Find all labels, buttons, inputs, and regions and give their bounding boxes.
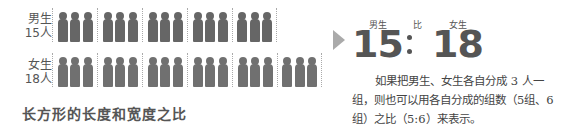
person-icon xyxy=(160,12,170,42)
person-icon xyxy=(173,12,183,42)
row-label-boys: 男生 15人 xyxy=(24,12,52,40)
person-group xyxy=(97,53,142,87)
person-group xyxy=(232,8,277,42)
person-group xyxy=(232,53,277,87)
person-icon xyxy=(193,57,203,87)
person-icon xyxy=(263,57,273,87)
person-icon xyxy=(83,57,93,87)
person-icon xyxy=(128,12,138,42)
arrow-icon xyxy=(333,30,345,50)
section-heading: 长方形的长度和宽度之比 xyxy=(22,103,187,123)
person-icon xyxy=(237,12,247,42)
ratio-left-value: 15 xyxy=(352,27,403,61)
girls-gender-label: 女生 xyxy=(24,58,52,72)
person-icon xyxy=(173,57,183,87)
person-icon xyxy=(307,57,317,87)
person-group xyxy=(52,53,97,87)
person-group xyxy=(187,8,232,42)
person-icon xyxy=(128,57,138,87)
person-group xyxy=(187,53,232,87)
person-icon xyxy=(148,12,158,42)
person-icon xyxy=(262,12,272,42)
person-icon xyxy=(250,57,260,87)
person-icon xyxy=(160,57,170,87)
person-group xyxy=(142,53,187,87)
boys-gender-label: 男生 xyxy=(24,12,52,26)
person-group xyxy=(97,8,142,42)
person-icon xyxy=(103,12,113,42)
person-icon xyxy=(115,57,125,87)
person-icon xyxy=(58,12,68,42)
person-icon xyxy=(282,57,292,87)
person-icon xyxy=(103,57,113,87)
person-icon xyxy=(70,57,80,87)
boys-count-label: 15人 xyxy=(24,26,52,40)
person-icon xyxy=(115,12,125,42)
ratio-colon xyxy=(407,31,413,57)
person-group xyxy=(52,8,97,42)
person-icon xyxy=(70,12,80,42)
person-icon xyxy=(83,12,93,42)
ratio-right-value: 18 xyxy=(432,27,483,61)
boys-people-row xyxy=(52,8,277,42)
person-icon xyxy=(218,12,228,42)
girls-people-row xyxy=(52,53,322,87)
girls-count-label: 18人 xyxy=(24,72,52,86)
person-icon xyxy=(193,12,203,42)
person-icon xyxy=(218,57,228,87)
person-icon xyxy=(205,57,215,87)
person-group xyxy=(142,8,187,42)
person-icon xyxy=(205,12,215,42)
person-icon xyxy=(238,57,248,87)
person-icon xyxy=(148,57,158,87)
person-icon xyxy=(250,12,260,42)
person-icon xyxy=(58,57,68,87)
explanation-paragraph: 如果把男生、女生各自分成 3 人一组，则也可以用各自分成的组数（5组、6组）之比… xyxy=(352,72,562,129)
person-icon xyxy=(295,57,305,87)
row-label-girls: 女生 18人 xyxy=(24,58,52,86)
ratio-middle-label: 比 xyxy=(413,18,422,31)
person-group xyxy=(277,53,322,87)
